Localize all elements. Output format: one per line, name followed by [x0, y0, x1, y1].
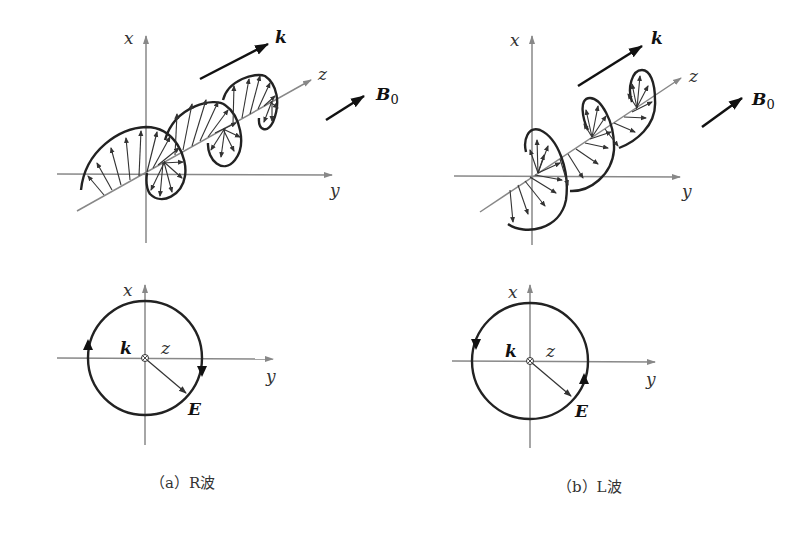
e-label: E	[187, 399, 202, 419]
panel-b-circle: x y z k E	[452, 282, 656, 448]
k-label: k	[651, 28, 663, 48]
y-axis-label: y	[329, 180, 340, 200]
z-axis-label: z	[160, 338, 171, 358]
e-vector	[532, 363, 571, 396]
k-label: k	[505, 341, 517, 361]
caption-a: （a）R波	[150, 474, 215, 492]
k-vector-arrow	[200, 44, 268, 79]
panel-a-circle: x y z k E	[57, 280, 276, 445]
e-vector	[147, 360, 186, 393]
panel-a-helix: x y z	[57, 27, 399, 243]
b0-label: B0	[375, 84, 399, 107]
k-label: k	[120, 338, 132, 358]
l-wave-helix-curve	[508, 70, 655, 230]
x-axis-label: x	[508, 282, 518, 302]
x-axis-label: x	[510, 30, 520, 50]
y-axis-label: y	[681, 181, 692, 201]
panel-b-helix: x y z	[454, 28, 775, 245]
z-axis-label: z	[688, 66, 699, 86]
b0-label: B0	[751, 89, 775, 112]
b0-vector-arrow	[326, 96, 364, 120]
y-axis	[57, 358, 273, 359]
wave-polarization-diagram: x y z	[0, 0, 806, 535]
y-axis-label: y	[645, 369, 656, 389]
y-axis	[452, 361, 655, 362]
z-axis-label: z	[545, 341, 556, 361]
x-axis-label: x	[124, 28, 134, 48]
z-axis-label: z	[317, 64, 328, 84]
e-label: E	[574, 401, 589, 421]
r-wave-helix-curve	[81, 75, 277, 199]
y-axis	[57, 174, 332, 175]
k-label: k	[275, 27, 287, 47]
b0-vector-arrow	[702, 98, 742, 127]
caption-b: （b）L波	[557, 478, 622, 496]
y-axis-label: y	[265, 366, 276, 386]
x-axis-label: x	[123, 280, 133, 300]
